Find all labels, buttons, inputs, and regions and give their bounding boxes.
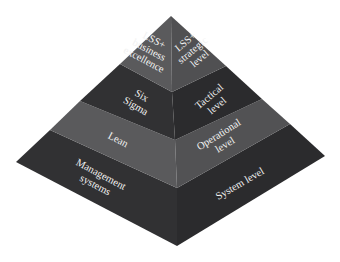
pyramid-diagram: LSS+ business excellence LSS+ strategic … — [0, 0, 340, 262]
